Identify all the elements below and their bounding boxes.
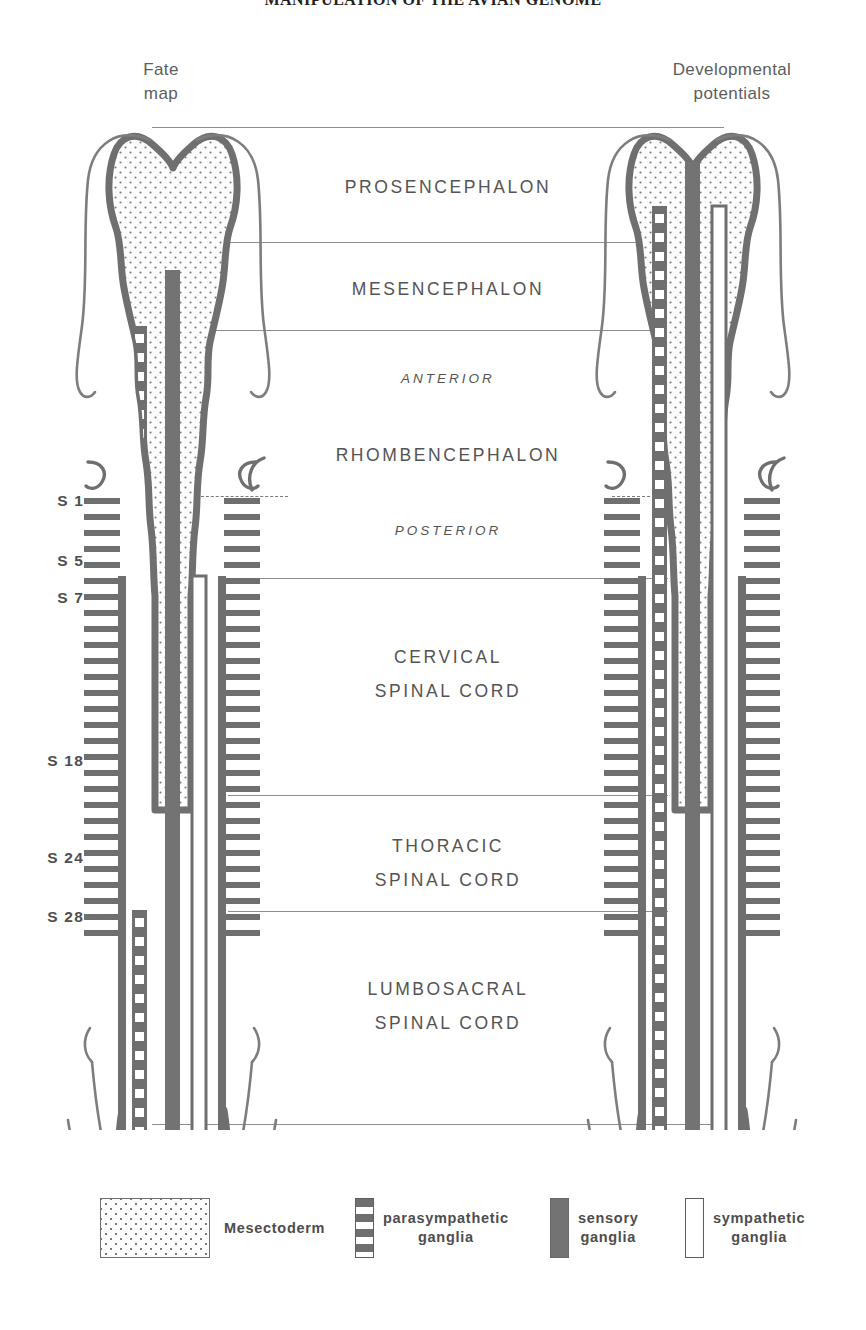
legend-label-parasympathetic-ganglia: parasympathetic ganglia bbox=[383, 1209, 509, 1246]
legend-label-sympathetic-ganglia: sympathetic ganglia bbox=[713, 1209, 805, 1246]
sensory-ganglia-bar-left bbox=[165, 270, 180, 1130]
parasympathetic-ganglia-lumbosacral-left bbox=[132, 910, 147, 1130]
embryo-diagram-fate-map bbox=[58, 110, 288, 1130]
legend-item-parasympathetic-ganglia: parasympathetic ganglia bbox=[355, 1198, 509, 1258]
sympathetic-ganglia-bar-left bbox=[192, 576, 206, 1130]
somite-ticks-right-flank-right-embryo bbox=[744, 498, 780, 936]
sympathetic-swatch-icon bbox=[685, 1198, 704, 1258]
legend-label-sensory-ganglia: sensory ganglia bbox=[578, 1209, 639, 1246]
column-caption-developmental-potentials: Developmental potentials bbox=[632, 58, 832, 106]
legend-item-sensory-ganglia: sensory ganglia bbox=[550, 1198, 639, 1258]
running-head: MANIPULATION OF THE AVIAN GENOME bbox=[0, 0, 866, 9]
mesectoderm-swatch-icon bbox=[100, 1198, 210, 1258]
somite-ticks-left-flank bbox=[84, 498, 120, 936]
parasympathetic-ganglia-bar-right bbox=[652, 206, 667, 1130]
embryo-diagram-developmental-potentials bbox=[578, 110, 808, 1130]
sensory-ganglia-bar-right bbox=[685, 162, 700, 1130]
legend-label-mesectoderm: Mesectoderm bbox=[224, 1219, 325, 1238]
legend: Mesectoderm parasympathetic ganglia sens… bbox=[0, 1186, 866, 1278]
parasympathetic-swatch-icon bbox=[355, 1198, 374, 1258]
column-caption-fate-map: Fate map bbox=[88, 58, 234, 106]
legend-item-mesectoderm: Mesectoderm bbox=[100, 1198, 325, 1258]
sympathetic-ganglia-bar-right bbox=[712, 206, 726, 1130]
somite-ticks-left-flank-right-embryo bbox=[604, 498, 640, 936]
somite-ticks-right-flank-left-embryo bbox=[224, 498, 260, 936]
sensory-swatch-icon bbox=[550, 1198, 569, 1258]
legend-item-sympathetic-ganglia: sympathetic ganglia bbox=[685, 1198, 805, 1258]
figure-canvas: MANIPULATION OF THE AVIAN GENOME Fate ma… bbox=[0, 0, 866, 1330]
